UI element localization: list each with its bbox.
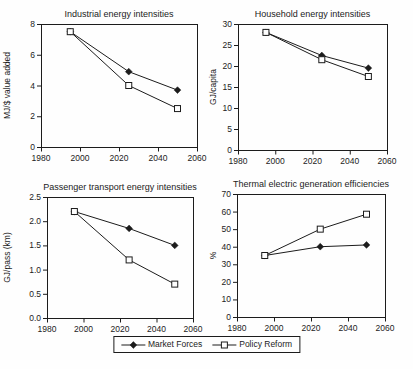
y-tick-label: 1.5 <box>29 240 41 250</box>
data-point-marker-filled-diamond <box>317 243 324 250</box>
data-point-marker-open-square <box>221 342 227 348</box>
data-point-marker-open-square <box>126 257 132 263</box>
x-tick-label: 2060 <box>376 323 395 333</box>
data-point-marker-open-square <box>172 281 178 287</box>
x-tick-label: 2000 <box>265 323 284 333</box>
x-tick-label: 2020 <box>111 324 130 334</box>
y-tick-label: 25 <box>223 40 233 50</box>
chart-thermal-electric-generation-efficiencies: Thermal electric generation efficiencies… <box>207 180 413 336</box>
data-point-marker-filled-diamond <box>129 341 136 348</box>
series-line-market-forces <box>265 245 367 256</box>
x-tick-label: 2000 <box>71 153 90 163</box>
y-tick-label: 6 <box>30 50 35 60</box>
y-axis-label: % <box>208 251 218 259</box>
y-tick-label: 30 <box>223 19 233 29</box>
y-tick-label: 4 <box>30 81 35 91</box>
y-axis-label: GJ/pass (km) <box>2 232 12 283</box>
plot-area <box>48 198 194 319</box>
y-tick-label: 0.5 <box>29 289 41 299</box>
data-point-marker-filled-diamond <box>125 68 132 75</box>
y-tick-label: 30 <box>222 259 232 269</box>
data-point-marker-open-square <box>365 74 371 80</box>
open-square-icon <box>212 340 236 350</box>
x-tick-label: 2040 <box>339 323 358 333</box>
data-point-marker-open-square <box>126 83 132 89</box>
chart-title: Industrial energy intensities <box>64 9 174 19</box>
y-tick-label: 0 <box>227 145 232 155</box>
x-tick-label: 2060 <box>188 153 207 163</box>
plot-area <box>42 25 198 148</box>
data-point-marker-filled-diamond <box>171 242 178 249</box>
y-tick-label: 1.0 <box>29 265 41 275</box>
data-point-marker-filled-diamond <box>126 225 133 232</box>
filled-diamond-icon <box>121 340 145 350</box>
data-point-marker-open-square <box>319 57 325 63</box>
chart-household-energy-intensities: Household energy intensitiesGJ/capita051… <box>207 0 413 176</box>
data-point-marker-filled-diamond <box>365 65 372 72</box>
x-tick-label: 1980 <box>32 153 51 163</box>
x-tick-label: 2020 <box>302 323 321 333</box>
data-point-marker-open-square <box>71 209 77 215</box>
chart-title: Passenger transport energy intensities <box>43 182 197 192</box>
data-point-marker-open-square <box>262 253 268 259</box>
x-tick-label: 2040 <box>340 156 359 166</box>
y-tick-label: 2.5 <box>29 192 41 202</box>
y-tick-label: 8 <box>30 19 35 29</box>
chart-passenger-transport-energy-intensities: Passenger transport energy intensitiesGJ… <box>1 180 207 336</box>
y-tick-label: 40 <box>222 242 232 252</box>
legend-label-market-forces: Market Forces <box>148 338 202 351</box>
x-tick-label: 2040 <box>147 324 166 334</box>
data-point-marker-open-square <box>364 211 370 217</box>
y-axis-label: GJ/capita <box>208 69 218 105</box>
series-line-policy-reform <box>265 214 367 255</box>
chart-industrial-energy-intensities: Industrial energy intensitiesMJ/$ value … <box>1 0 207 176</box>
figure-panel: Industrial energy intensitiesMJ/$ value … <box>0 0 413 369</box>
y-tick-label: 60 <box>222 207 232 217</box>
plot-area <box>239 25 388 151</box>
y-tick-label: 2.0 <box>29 216 41 226</box>
y-tick-label: 70 <box>222 189 232 199</box>
x-tick-label: 2000 <box>266 156 285 166</box>
chart-title: Household energy intensities <box>255 9 371 19</box>
y-tick-label: 2 <box>30 111 35 121</box>
y-tick-label: 10 <box>222 294 232 304</box>
x-tick-label: 1980 <box>38 324 57 334</box>
y-tick-label: 15 <box>223 82 233 92</box>
y-tick-label: 20 <box>223 61 233 71</box>
y-tick-label: 20 <box>222 277 232 287</box>
x-tick-label: 2000 <box>74 324 93 334</box>
x-tick-label: 2040 <box>149 153 168 163</box>
y-tick-label: 0 <box>30 142 35 152</box>
x-tick-label: 2060 <box>184 324 203 334</box>
data-point-marker-open-square <box>175 106 181 112</box>
data-point-marker-filled-diamond <box>174 87 181 94</box>
series-line-market-forces <box>266 32 368 68</box>
y-tick-label: 5 <box>227 124 232 134</box>
legend-label-policy-reform: Policy Reform <box>239 338 292 351</box>
x-tick-label: 2060 <box>378 156 397 166</box>
chart-title: Thermal electric generation efficiencies <box>233 179 389 189</box>
data-point-marker-open-square <box>263 29 269 35</box>
data-point-marker-open-square <box>317 226 323 232</box>
chart-legend: Market Forces Policy Reform <box>113 336 300 353</box>
legend-entry-policy-reform: Policy Reform <box>212 338 292 351</box>
x-tick-label: 1980 <box>228 323 247 333</box>
y-tick-label: 0 <box>226 312 231 322</box>
y-tick-label: 0.0 <box>29 313 41 323</box>
x-tick-label: 2020 <box>110 153 129 163</box>
series-line-market-forces <box>74 212 174 246</box>
y-axis-label: MJ/$ value added <box>2 52 12 119</box>
x-tick-label: 2020 <box>303 156 322 166</box>
data-point-marker-filled-diamond <box>363 242 370 249</box>
series-line-policy-reform <box>74 212 174 285</box>
x-tick-label: 1980 <box>229 156 248 166</box>
y-tick-label: 10 <box>223 103 233 113</box>
legend-entry-market-forces: Market Forces <box>121 338 202 351</box>
y-tick-label: 50 <box>222 224 232 234</box>
data-point-marker-open-square <box>67 29 73 35</box>
